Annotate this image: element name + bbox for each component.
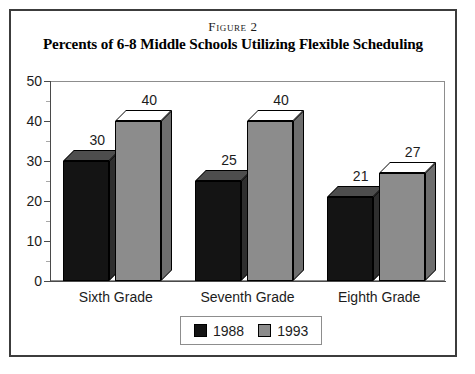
chart-legend: 19881993 [180, 316, 322, 345]
y-axis-line [50, 81, 51, 282]
x-axis-category-label: Sixth Grade [50, 290, 182, 304]
x-axis-category-label: Seventh Grade [182, 290, 314, 304]
bar-1988-sixth-grade [63, 150, 120, 281]
bar-front-face [327, 197, 373, 281]
bar-value-label: 25 [206, 153, 252, 167]
bar-1993-eighth-grade [379, 162, 436, 281]
figure-card: Figure 2 Percents of 6-8 Middle Schools … [9, 9, 457, 357]
legend-swatch [258, 324, 271, 337]
legend-entry-1993: 1993 [258, 324, 308, 338]
bar-value-label: 40 [258, 93, 304, 107]
y-axis-tick-label: 0 [14, 274, 42, 288]
legend-swatch [194, 324, 207, 337]
bar-1988-eighth-grade [327, 186, 384, 281]
x-axis-line [50, 281, 446, 282]
bar-side-face [293, 110, 304, 281]
bar-1993-sixth-grade [115, 110, 172, 281]
legend-label: 1988 [213, 324, 244, 338]
bar-side-face [425, 162, 436, 281]
bar-1988-seventh-grade [195, 170, 252, 281]
x-axis-category-label: Eighth Grade [313, 290, 445, 304]
bar-front-face [195, 181, 241, 281]
y-axis-tick-label: 40 [14, 114, 42, 128]
legend-label: 1993 [277, 324, 308, 338]
y-axis-tick-label: 30 [14, 154, 42, 168]
bar-value-label: 30 [74, 133, 120, 147]
bar-chart: 01020304050 304025402127 Sixth GradeSeve… [11, 59, 455, 357]
bar-front-face [115, 121, 161, 281]
bar-1993-seventh-grade [247, 110, 304, 281]
bar-front-face [379, 173, 425, 281]
bar-side-face [161, 110, 172, 281]
figure-title: Percents of 6-8 Middle Schools Utilizing… [11, 35, 455, 53]
bar-value-label: 21 [338, 169, 384, 183]
legend-entry-1988: 1988 [194, 324, 244, 338]
y-axis-tick-label: 20 [14, 194, 42, 208]
bar-value-label: 27 [390, 145, 436, 159]
y-axis-tick-label: 10 [14, 234, 42, 248]
bar-front-face [247, 121, 293, 281]
bar-front-face [63, 161, 109, 281]
bar-value-label: 40 [126, 93, 172, 107]
y-axis-tick-label: 50 [14, 74, 42, 88]
figure-number-label: Figure 2 [11, 19, 455, 35]
y-axis-labels: 01020304050 [11, 59, 42, 299]
